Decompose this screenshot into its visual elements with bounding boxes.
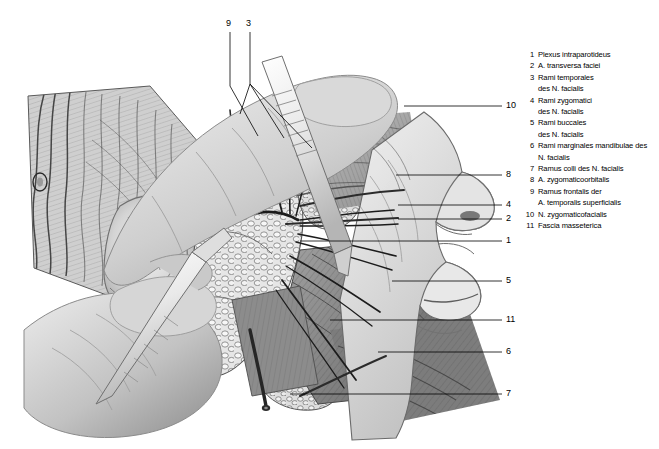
anatomy-illustration bbox=[0, 0, 520, 449]
legend-text: Fascia masseterica bbox=[538, 220, 659, 231]
legend-text: A. transversa faciei bbox=[538, 60, 659, 71]
callout-6: 6 bbox=[506, 347, 511, 356]
legend-number: 5 bbox=[524, 117, 538, 128]
legend-text: des N. facialis bbox=[538, 129, 659, 140]
callout-8: 8 bbox=[506, 170, 511, 179]
legend-text: Ramus frontalis der bbox=[538, 186, 659, 197]
legend-number: 11 bbox=[524, 220, 538, 231]
legend-text: A. temporalis superficialis bbox=[538, 197, 659, 208]
anatomy-plate-page: 9 3 10 8 4 2 1 5 11 6 7 1 Plexus intrapa… bbox=[0, 0, 659, 449]
cut-vessel-stump bbox=[262, 405, 270, 411]
callout-10: 10 bbox=[506, 101, 516, 110]
legend-number: 6 bbox=[524, 140, 538, 151]
legend-number: 8 bbox=[524, 174, 538, 185]
legend-text: N. zygomaticofacialis bbox=[538, 209, 659, 220]
callout-3: 3 bbox=[246, 19, 251, 28]
legend-text: N. facialis bbox=[538, 152, 659, 163]
legend-item-9: 9 Ramus frontalis der bbox=[524, 186, 659, 197]
legend-text: A. zygomaticoorbitalis bbox=[538, 174, 659, 185]
legend-item-9-cont: 9 A. temporalis superficialis bbox=[524, 197, 659, 208]
legend-number: 7 bbox=[524, 163, 538, 174]
callout-1: 1 bbox=[506, 236, 511, 245]
legend-item-4: 4 Rami zygomatici bbox=[524, 95, 659, 106]
callout-2: 2 bbox=[506, 214, 511, 223]
legend-text: Rami marginales mandibulae des bbox=[538, 140, 659, 151]
figure-legend: 1 Plexus intraparotideus 2 A. transversa… bbox=[524, 49, 659, 232]
legend-number: 10 bbox=[524, 209, 538, 220]
legend-number: 2 bbox=[524, 60, 538, 71]
legend-item-4-cont: 4 des N. facialis bbox=[524, 106, 659, 117]
legend-item-3-cont: 3 des N. facialis bbox=[524, 83, 659, 94]
callout-7: 7 bbox=[506, 389, 511, 398]
legend-number: 4 bbox=[524, 95, 538, 106]
legend-item-5-cont: 5 des N. facialis bbox=[524, 129, 659, 140]
legend-text: des N. facialis bbox=[538, 106, 659, 117]
legend-text: Rami buccales bbox=[538, 117, 659, 128]
legend-item-6-cont: 6 N. facialis bbox=[524, 152, 659, 163]
legend-item-5: 5 Rami buccales bbox=[524, 117, 659, 128]
legend-text: Ramus colli des N. facialis bbox=[538, 163, 659, 174]
legend-item-8: 8 A. zygomaticoorbitalis bbox=[524, 174, 659, 185]
legend-item-2: 2 A. transversa faciei bbox=[524, 60, 659, 71]
legend-item-3: 3 Rami temporales bbox=[524, 72, 659, 83]
callout-4: 4 bbox=[506, 200, 511, 209]
legend-number: 3 bbox=[524, 72, 538, 83]
legend-item-7: 7 Ramus colli des N. facialis bbox=[524, 163, 659, 174]
legend-text: Rami temporales bbox=[538, 72, 659, 83]
callout-5: 5 bbox=[506, 276, 511, 285]
callout-11: 11 bbox=[506, 315, 515, 324]
legend-number: 1 bbox=[524, 49, 538, 60]
legend-item-6: 6 Rami marginales mandibulae des bbox=[524, 140, 659, 151]
legend-item-10: 10 N. zygomaticofacialis bbox=[524, 209, 659, 220]
legend-text: Rami zygomatici bbox=[538, 95, 659, 106]
legend-number: 9 bbox=[524, 186, 538, 197]
callout-9: 9 bbox=[226, 19, 231, 28]
legend-item-1: 1 Plexus intraparotideus bbox=[524, 49, 659, 60]
legend-item-11: 11 Fascia masseterica bbox=[524, 220, 659, 231]
legend-text: des N. facialis bbox=[538, 83, 659, 94]
legend-text: Plexus intraparotideus bbox=[538, 49, 659, 60]
